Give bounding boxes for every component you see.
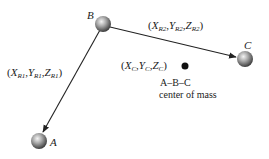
- vector-b-to-a: [43, 30, 100, 132]
- atom-a-sphere: [31, 133, 47, 149]
- atom-a-label: A: [50, 137, 57, 148]
- vector-r2-label: (XR2,YR2,ZR2): [148, 20, 203, 33]
- center-of-mass-dot: [182, 63, 189, 70]
- center-of-mass-caption-line1: A–B–C: [160, 78, 191, 88]
- atom-b-sphere: [95, 16, 111, 32]
- atom-b-label: B: [87, 10, 94, 21]
- atom-c-sphere: [237, 51, 253, 67]
- molecule-vector-diagram: B C A (XR1,YR1,ZR1) (XR2,YR2,ZR2) (XC,YC…: [0, 0, 269, 159]
- center-of-mass-coords: (XC,YC,ZC): [121, 60, 167, 73]
- center-of-mass-caption-line2: center of mass: [159, 90, 217, 100]
- vector-r1-label: (XR1,YR1,ZR1): [7, 67, 62, 80]
- atom-c-label: C: [244, 40, 251, 51]
